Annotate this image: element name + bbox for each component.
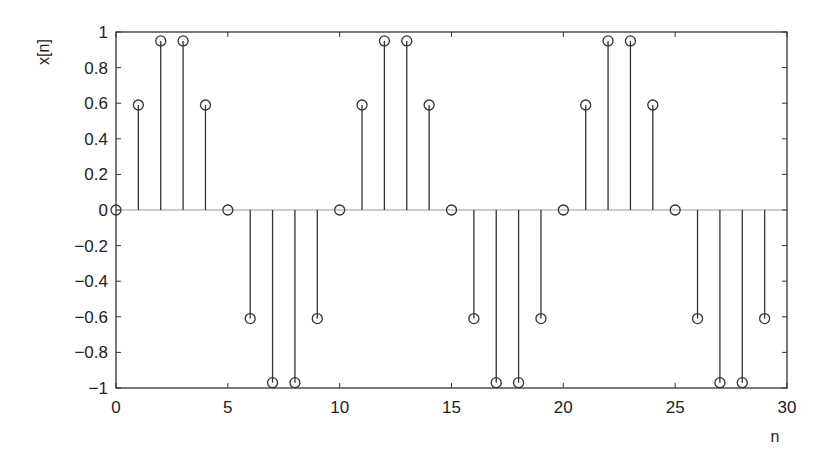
stem-point [379, 36, 389, 210]
y-tick-label: −0.2 [74, 237, 108, 256]
y-tick-label: 0.6 [84, 94, 108, 113]
x-tick-label: 10 [330, 398, 349, 417]
y-tick-label: 0.2 [84, 165, 108, 184]
stem-point [178, 36, 188, 210]
stem-point [603, 36, 613, 210]
stem-point [491, 210, 501, 388]
stem-point [312, 210, 322, 324]
y-tick-label: −0.8 [74, 343, 108, 362]
stem-point [760, 210, 770, 324]
stem-point [469, 210, 479, 324]
y-axis-label: x[n] [35, 39, 52, 65]
stem-point [581, 100, 591, 210]
x-tick-label: 30 [778, 398, 797, 417]
stem-point [648, 100, 658, 210]
stem-point [715, 210, 725, 388]
stem-point [133, 100, 143, 210]
x-tick-label: 20 [554, 398, 573, 417]
stem-point [245, 210, 255, 324]
y-tick-label: −0.4 [74, 272, 108, 291]
stem-point [536, 210, 546, 324]
x-tick-label: 0 [111, 398, 120, 417]
y-tick-label: −1 [89, 379, 108, 398]
stem-point [200, 100, 210, 210]
stem-plot: 05101520253010.80.60.40.20−0.2−0.4−0.6−0… [0, 0, 827, 466]
stem-point [156, 36, 166, 210]
y-tick-label: −0.6 [74, 308, 108, 327]
stem-point [424, 100, 434, 210]
stem-point [268, 210, 278, 388]
y-tick-label: 1 [99, 23, 108, 42]
y-tick-label: 0.4 [84, 130, 108, 149]
x-tick-label: 25 [666, 398, 685, 417]
y-tick-label: 0.8 [84, 59, 108, 78]
stem-point [737, 210, 747, 388]
stem-point [693, 210, 703, 324]
x-axis-label: n [771, 428, 780, 445]
x-tick-label: 5 [223, 398, 232, 417]
stem-point [290, 210, 300, 388]
stem-point [514, 210, 524, 388]
stem-point [625, 36, 635, 210]
stem-point [357, 100, 367, 210]
x-tick-label: 15 [442, 398, 461, 417]
y-tick-label: 0 [99, 201, 108, 220]
stems [111, 36, 770, 388]
stem-point [402, 36, 412, 210]
